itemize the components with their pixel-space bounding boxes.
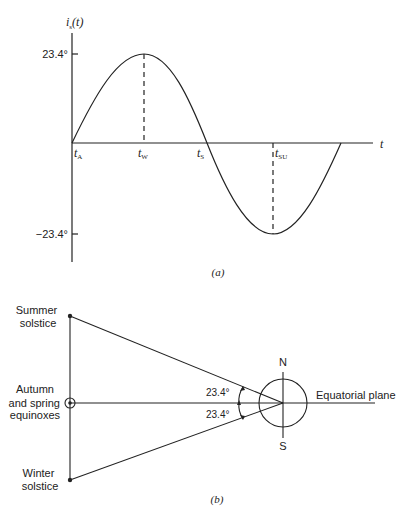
winter-solstice-label: Winter solstice	[22, 467, 59, 492]
tick-label-pos: 23.4°	[42, 48, 68, 60]
panel-a-plot	[72, 33, 373, 262]
angle-label-bottom: 23.4°	[206, 409, 229, 420]
marker-tA: tA	[74, 146, 82, 161]
marker-tS: tS	[197, 146, 204, 161]
summer-ray	[70, 316, 283, 403]
caption-a: (a)	[212, 266, 225, 279]
arrowhead-bottom	[240, 415, 245, 420]
winter-ray	[70, 403, 283, 480]
summer-dot	[68, 314, 72, 318]
equinox-label: Autumn and spring equinoxes	[9, 383, 63, 421]
tick-label-neg: −23.4°	[36, 228, 68, 240]
marker-tSU: tSU	[275, 146, 287, 161]
north-label: N	[279, 356, 287, 368]
equatorial-plane-label: Equatorial plane	[316, 389, 396, 401]
x-axis-label: t	[380, 137, 384, 151]
caption-b: (b)	[211, 493, 224, 506]
south-label: S	[279, 440, 286, 452]
angle-label-top: 23.4°	[206, 387, 229, 398]
y-axis-label: is(t)	[66, 15, 83, 31]
summer-solstice-label: Summer solstice	[16, 304, 61, 329]
winter-dot	[68, 478, 72, 482]
panel-b-dots	[68, 314, 245, 482]
sine-curve	[72, 54, 341, 234]
equinox-dot	[68, 401, 72, 405]
diagram-canvas: is(t) 23.4° −23.4° t tA tW tS tSU (a)	[0, 0, 411, 517]
marker-tW: tW	[138, 146, 148, 161]
